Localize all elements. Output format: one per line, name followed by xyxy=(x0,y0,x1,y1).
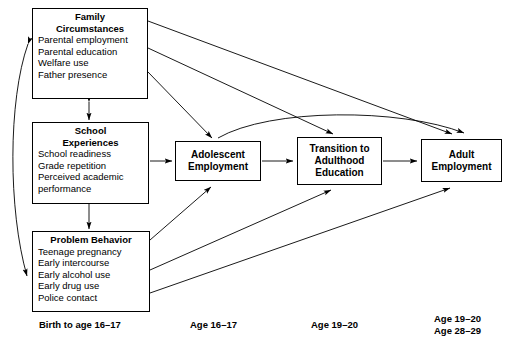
node-school-title-line2: Experiences xyxy=(33,137,148,149)
node-school-item-1: Grade repetition xyxy=(38,160,148,172)
node-adult-title-line2: Employment xyxy=(431,161,491,173)
edge-adolescent-adult-curve xyxy=(218,115,464,138)
node-problem-item-4: Police contact xyxy=(38,292,149,304)
timeline-label-transition: Age 19–20 xyxy=(311,319,358,331)
node-family-item-1: Parental education xyxy=(38,46,147,58)
node-problem-behavior[interactable]: Problem Behavior Teenage pregnancy Early… xyxy=(32,231,150,312)
timeline-transition-text: Age 19–20 xyxy=(311,319,358,331)
timeline-label-adult: Age 19–20 Age 28–29 xyxy=(434,313,481,336)
node-school-item-3: performance xyxy=(38,183,148,195)
node-school-item-2: Perceived academic xyxy=(38,171,148,183)
node-problem-title: Problem Behavior xyxy=(33,232,149,246)
node-school-item-0: School readiness xyxy=(38,148,148,160)
timeline-birth-text: Birth to age 16–17 xyxy=(39,319,121,331)
node-adult-title-line1: Adult xyxy=(431,149,491,161)
node-problem-item-0: Teenage pregnancy xyxy=(38,246,149,258)
timeline-adult-text-line2: Age 28–29 xyxy=(434,325,481,337)
node-family-title-line2: Circumstances xyxy=(33,23,147,35)
timeline-label-birth: Birth to age 16–17 xyxy=(39,319,121,331)
node-school-title: School Experiences xyxy=(33,123,148,148)
node-problem-items: Teenage pregnancy Early intercourse Earl… xyxy=(33,246,149,304)
node-problem-title-line1: Problem Behavior xyxy=(33,234,149,246)
node-family-item-3: Father presence xyxy=(38,69,147,81)
edge-problem-adolescent xyxy=(150,187,211,240)
node-school-title-line1: School xyxy=(33,125,148,137)
edge-problem-transition xyxy=(150,190,331,270)
edge-family-adolescent xyxy=(148,72,212,138)
node-transition-title: Transition to Adulthood Education xyxy=(310,143,370,179)
node-family-circumstances[interactable]: Family Circumstances Parental employment… xyxy=(32,8,148,99)
node-problem-item-1: Early intercourse xyxy=(38,257,149,269)
node-family-items: Parental employment Parental education W… xyxy=(33,34,147,80)
timeline-adult-text-line1: Age 19–20 xyxy=(434,313,481,325)
edge-family-transition xyxy=(148,48,333,134)
node-school-experiences[interactable]: School Experiences School readiness Grad… xyxy=(32,122,149,204)
node-transition-title-line3: Education xyxy=(310,167,370,179)
node-school-items: School readiness Grade repetition Percei… xyxy=(33,148,148,194)
node-transition-title-line1: Transition to xyxy=(310,143,370,155)
node-transition-adulthood-education[interactable]: Transition to Adulthood Education xyxy=(297,137,382,185)
node-transition-title-line2: Adulthood xyxy=(310,155,370,167)
node-problem-item-2: Early alcohol use xyxy=(38,269,149,281)
diagram-canvas: Family Circumstances Parental employment… xyxy=(0,0,508,348)
node-adolescent-title-line1: Adolescent xyxy=(188,149,248,161)
node-adolescent-title-line2: Employment xyxy=(188,161,248,173)
timeline-adolescent-text: Age 16–17 xyxy=(190,319,237,331)
node-adult-title: Adult Employment xyxy=(431,149,491,173)
edge-family-problem-curve xyxy=(13,44,28,276)
node-family-title: Family Circumstances xyxy=(33,9,147,34)
node-adolescent-employment[interactable]: Adolescent Employment xyxy=(175,141,261,181)
node-problem-item-3: Early drug use xyxy=(38,280,149,292)
timeline-label-adolescent: Age 16–17 xyxy=(190,319,237,331)
node-family-title-line1: Family xyxy=(33,11,147,23)
node-adult-employment[interactable]: Adult Employment xyxy=(421,139,502,182)
node-family-item-2: Welfare use xyxy=(38,57,147,69)
node-adolescent-title: Adolescent Employment xyxy=(188,149,248,173)
node-family-item-0: Parental employment xyxy=(38,34,147,46)
